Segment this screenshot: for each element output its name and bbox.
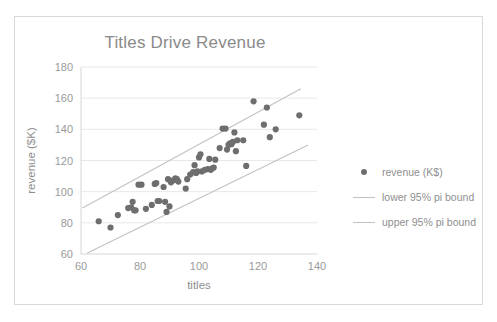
- x-axis-tick-label: 120: [249, 260, 267, 272]
- data-point: [243, 163, 249, 169]
- x-axis-tick-label: 100: [190, 260, 208, 272]
- legend-line-marker-icon: [351, 197, 377, 198]
- data-point: [143, 206, 149, 212]
- data-point: [240, 137, 246, 143]
- chart-frame: Titles Drive Revenue 6080100120140160180…: [14, 16, 483, 305]
- data-point: [138, 182, 144, 188]
- data-point: [250, 98, 256, 104]
- y-axis-tick-label: 120: [55, 155, 73, 167]
- data-point: [261, 122, 267, 128]
- data-point: [233, 148, 239, 154]
- x-axis-tick-label: 140: [308, 260, 326, 272]
- data-point: [166, 203, 172, 209]
- data-point: [222, 125, 228, 131]
- data-point: [197, 151, 203, 157]
- data-point: [183, 185, 189, 191]
- y-axis-tick-label: 180: [55, 61, 73, 73]
- data-point: [267, 134, 273, 140]
- y-axis-tick-label: 100: [55, 186, 73, 198]
- legend-item-revenue[interactable]: revenue (K$): [351, 161, 497, 183]
- x-axis-tick-label: 80: [134, 260, 146, 272]
- y-axis-tick-label: 80: [61, 217, 73, 229]
- legend-label-upper-bound: upper 95% pi bound: [377, 216, 476, 228]
- x-axis-tick-label: 60: [75, 260, 87, 272]
- data-point: [130, 199, 136, 205]
- data-point: [96, 218, 102, 224]
- data-point: [132, 207, 138, 213]
- y-axis-tick-label: 60: [61, 248, 73, 260]
- data-point: [231, 129, 237, 135]
- chart-legend: revenue (K$) lower 95% pi bound upper 95…: [351, 161, 497, 236]
- data-point: [234, 137, 240, 143]
- data-point: [153, 180, 159, 186]
- data-point: [115, 212, 121, 218]
- data-point: [212, 157, 218, 163]
- data-point: [217, 145, 223, 151]
- data-point: [156, 198, 162, 204]
- data-point: [211, 164, 217, 170]
- data-point: [161, 184, 167, 190]
- data-point: [206, 156, 212, 162]
- legend-item-lower-bound[interactable]: lower 95% pi bound: [351, 186, 497, 208]
- y-axis-tick-label: 140: [55, 123, 73, 135]
- data-point: [163, 209, 169, 215]
- data-point: [296, 112, 302, 118]
- data-point: [175, 178, 181, 184]
- y-axis-tick-label: 160: [55, 92, 73, 104]
- data-point: [273, 126, 279, 132]
- legend-item-upper-bound[interactable]: upper 95% pi bound: [351, 211, 497, 233]
- y-axis-title: revenue ($K): [25, 127, 37, 194]
- legend-dot-marker-icon: [351, 169, 377, 175]
- data-point: [149, 202, 155, 208]
- legend-line-marker-icon: [351, 222, 377, 223]
- data-point: [191, 162, 197, 168]
- data-point: [162, 199, 168, 205]
- data-point: [264, 104, 270, 110]
- legend-label-revenue: revenue (K$): [377, 166, 443, 178]
- legend-label-lower-bound: lower 95% pi bound: [377, 191, 474, 203]
- data-point: [107, 224, 113, 230]
- pi-bound-line: [87, 145, 308, 253]
- x-axis-title: titles: [187, 279, 211, 291]
